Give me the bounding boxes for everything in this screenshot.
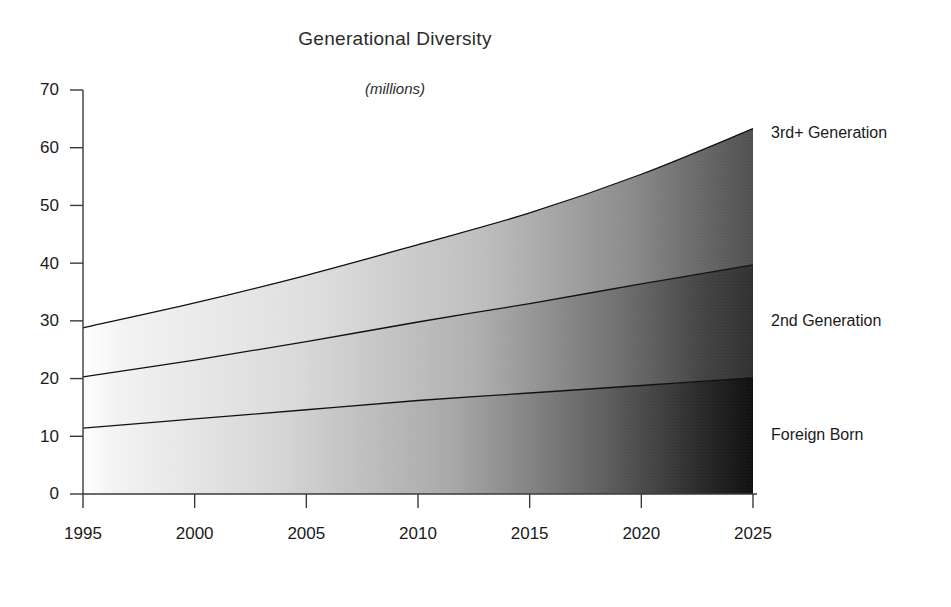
y-tick-label: 10 — [40, 427, 59, 446]
series-labels-group: 3rd+ Generation2nd GenerationForeign Bor… — [771, 124, 887, 443]
x-tick-label: 2005 — [287, 524, 325, 543]
x-axis-ticks: 1995200020052010201520202025 — [64, 494, 772, 543]
x-tick-label: 2020 — [622, 524, 660, 543]
y-tick-label: 0 — [50, 484, 59, 503]
x-tick-label: 1995 — [64, 524, 102, 543]
y-tick-label: 20 — [40, 369, 59, 388]
x-tick-label: 2010 — [399, 524, 437, 543]
x-tick-label: 2000 — [176, 524, 214, 543]
x-tick-label: 2015 — [511, 524, 549, 543]
y-axis-ticks: 010203040506070 — [40, 80, 83, 503]
y-tick-label: 50 — [40, 196, 59, 215]
series-label-foreign-born: Foreign Born — [771, 426, 864, 443]
x-tick-label: 2025 — [734, 524, 772, 543]
series-label-3rd-generation: 3rd+ Generation — [771, 124, 887, 141]
chart-container: Generational Diversity (millions) — [0, 0, 951, 607]
chart-plot-svg: 010203040506070 199520002005201020152020… — [0, 0, 951, 607]
series-label-2nd-generation: 2nd Generation — [771, 312, 881, 329]
area-halftone-texture — [83, 129, 753, 494]
y-tick-label: 40 — [40, 254, 59, 273]
y-tick-label: 70 — [40, 80, 59, 99]
y-tick-label: 30 — [40, 311, 59, 330]
y-tick-label: 60 — [40, 138, 59, 157]
